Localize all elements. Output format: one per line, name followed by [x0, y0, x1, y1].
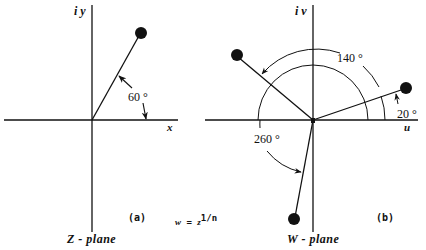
w-angle-label-140: 140 °: [337, 51, 363, 66]
w-arc-140: [262, 49, 340, 74]
w-outer-arc-140: [381, 96, 385, 120]
w-outer-arc-mid: [363, 66, 379, 87]
z-vector-60: [92, 34, 140, 120]
w-origin-mark: [311, 118, 315, 123]
z-y-axis-label: i y: [74, 4, 86, 19]
formula-eq: =: [186, 217, 191, 227]
w-vector-260: [295, 120, 313, 217]
z-plane-panel: [4, 5, 178, 232]
w-plane-text: W - plane: [287, 232, 339, 246]
w-point-dot-260: [288, 213, 300, 225]
formula-lhs: w: [175, 217, 181, 227]
mapping-formula: w = z1/n: [175, 213, 217, 227]
w-panel-tag: (b): [376, 212, 394, 223]
z-angle-label: 60 °: [128, 90, 148, 105]
w-vector-20: [313, 89, 404, 120]
w-point-dot-20: [400, 82, 412, 94]
w-u-axis-label: u: [404, 121, 410, 133]
w-arc-260-lower: [267, 151, 301, 172]
w-plane-label: W - plane: [287, 232, 339, 247]
w-angle-label-260: 260 °: [254, 132, 280, 147]
z-point-dot: [135, 27, 147, 39]
w-point-dot-140: [231, 49, 243, 61]
w-v-axis-label: i v: [295, 4, 307, 19]
z-x-axis-label: x: [167, 121, 173, 133]
z-angle-arrow-lower: [143, 103, 146, 119]
z-angle-arrow-upper: [119, 76, 132, 88]
w-angle-arrow-20: [396, 94, 398, 104]
formula-exponent: 1/n: [201, 213, 217, 223]
w-angle-label-20: 20 °: [397, 107, 417, 122]
z-plane-text: Z - plane: [67, 232, 116, 246]
w-plane-panel: [205, 5, 418, 232]
z-panel-tag: (a): [128, 212, 146, 223]
z-plane-label: Z - plane: [67, 232, 116, 247]
